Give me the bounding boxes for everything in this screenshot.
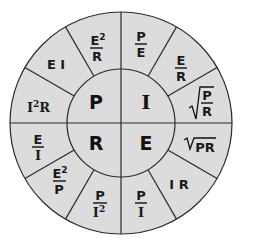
svg-text:PR: PR	[195, 140, 215, 155]
center-label-power: P	[89, 91, 103, 113]
svg-text:I: I	[35, 148, 41, 163]
ohms-law-wheel: P I R E I2R E I E2 R P E E R P R PR I R	[0, 0, 255, 240]
svg-text:P: P	[136, 188, 146, 203]
svg-text:P: P	[136, 29, 146, 44]
svg-text:R: R	[176, 69, 186, 84]
svg-text:E: E	[137, 45, 146, 60]
formula-i-squared-r: I2R	[27, 99, 50, 115]
center-label-current: I	[142, 91, 151, 113]
svg-text:P: P	[202, 88, 212, 103]
svg-text:E: E	[34, 132, 43, 147]
center-label-voltage: E	[140, 132, 153, 154]
formula-ei: E I	[47, 57, 65, 72]
formula-ir: I R	[169, 177, 188, 192]
center-label-resistance: R	[89, 132, 104, 154]
formula-e-over-r: E R	[175, 53, 187, 84]
svg-text:I2R: I2R	[27, 99, 50, 115]
svg-text:R: R	[92, 49, 102, 64]
svg-text:P: P	[54, 182, 64, 197]
svg-text:I: I	[138, 205, 144, 220]
svg-text:R: R	[202, 104, 212, 119]
formula-p-over-e: P E	[135, 29, 147, 60]
svg-text:P: P	[95, 188, 105, 203]
svg-text:E: E	[177, 53, 186, 68]
